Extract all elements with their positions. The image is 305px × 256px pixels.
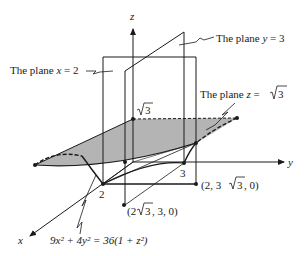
plane-z-sqrt-value: 3 xyxy=(278,88,284,100)
point-a xyxy=(194,182,198,186)
x-axis-label: x xyxy=(17,234,23,246)
point-intersection xyxy=(194,141,198,145)
hyperboloid-diagram: z y x The plane y = 3 The plane x = 2 Th… xyxy=(0,0,305,256)
point-2 xyxy=(101,182,105,186)
plane-x-leader xyxy=(86,71,113,74)
point-a-rad: 3 xyxy=(237,179,243,191)
point-b-label-suffix: , 3, 0) xyxy=(152,205,178,218)
sqrt3-value: 3 xyxy=(145,104,151,116)
point-3 xyxy=(182,161,186,165)
plane-x-label: The plane x = 2 xyxy=(10,64,79,76)
point-b xyxy=(122,203,126,207)
z-axis-label: z xyxy=(129,10,135,22)
plane-z-label: The plane z = xyxy=(200,88,260,100)
point-ellipse-left xyxy=(33,163,37,167)
point-b-rad: 3 xyxy=(145,205,151,217)
surface-equation: 9x² + 4y² = 36(1 + z²) xyxy=(50,234,148,247)
label-2: 2 xyxy=(99,188,105,200)
point-ellipse-right xyxy=(235,116,239,120)
point-b-label-prefix: (2 xyxy=(127,205,136,218)
y-axis-label: y xyxy=(287,156,293,168)
label-3: 3 xyxy=(180,167,186,179)
point-a-label-suffix: , 0) xyxy=(244,179,259,192)
point-origin-plane xyxy=(123,160,127,164)
point-a-label-prefix: (2, 3 xyxy=(201,179,222,192)
equation-leader xyxy=(77,175,96,234)
point-sqrt3 xyxy=(131,117,135,121)
plane-y-label: The plane y = 3 xyxy=(216,32,285,44)
